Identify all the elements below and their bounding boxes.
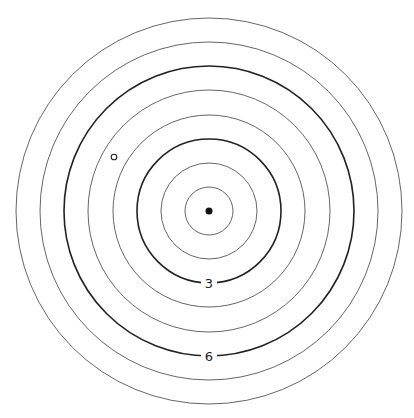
- ring-labels-group: 3 6: [201, 275, 217, 364]
- concentric-ring-diagram: 3 6: [0, 0, 414, 418]
- ring-6-label: 6: [205, 349, 213, 364]
- marker-point-open-circle: [111, 154, 117, 160]
- ring-3-label: 3: [205, 276, 213, 291]
- center-point: [206, 208, 213, 215]
